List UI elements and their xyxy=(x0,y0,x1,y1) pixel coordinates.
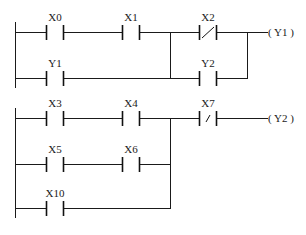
contact-no-icon xyxy=(123,25,140,40)
coil-y1: ( Y1 ) xyxy=(268,27,294,38)
contact-label-x7: X7 xyxy=(201,98,214,109)
contact-label-x4: X4 xyxy=(124,98,137,109)
contact-label-y1: Y1 xyxy=(48,58,61,69)
coil-y2: ( Y2 ) xyxy=(268,113,294,124)
contact-label-x0: X0 xyxy=(48,12,61,23)
contact-no-icon xyxy=(47,157,64,172)
contact-label-y2: Y2 xyxy=(201,58,214,69)
contact-no-icon xyxy=(47,111,64,126)
network-2 xyxy=(15,108,268,218)
contact-no-icon xyxy=(47,71,64,86)
contact-label-x10: X10 xyxy=(46,188,65,199)
contact-label-x6: X6 xyxy=(124,144,137,155)
contact-label-x5: X5 xyxy=(48,144,61,155)
ladder-diagram xyxy=(0,0,306,235)
contact-label-x3: X3 xyxy=(48,98,61,109)
contact-label-x1: X1 xyxy=(124,12,137,23)
contact-label-x2: X2 xyxy=(201,12,214,23)
network-1 xyxy=(15,22,268,88)
contact-no-icon xyxy=(47,25,64,40)
contact-no-icon xyxy=(47,201,64,216)
contact-no-icon xyxy=(123,157,140,172)
contact-nc-icon xyxy=(200,111,217,126)
contact-no-icon xyxy=(200,71,217,86)
contact-no-icon xyxy=(123,111,140,126)
contact-nc-icon xyxy=(200,25,217,40)
